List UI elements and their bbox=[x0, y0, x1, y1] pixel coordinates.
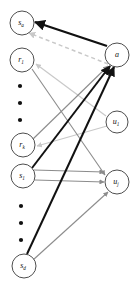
node-s-d[interactable]: sd bbox=[12, 254, 36, 278]
edge-a-to-sa-dashed bbox=[29, 33, 108, 64]
ellipsis-dot-upper-2 bbox=[18, 101, 22, 105]
node-a[interactable]: a bbox=[105, 43, 129, 67]
node-r-k[interactable]: rk bbox=[11, 133, 35, 157]
graph-canvas: sa r1 rk s1 bbox=[0, 0, 138, 291]
graph-diagram: sa r1 rk s1 bbox=[0, 0, 138, 291]
node-s-a[interactable]: sa bbox=[10, 11, 34, 35]
node-r-1[interactable]: r1 bbox=[10, 48, 34, 72]
edge-s1-to-a bbox=[32, 66, 110, 168]
edge-layer bbox=[27, 22, 114, 260]
ellipsis-dot-upper-3 bbox=[18, 118, 22, 122]
ellipsis-dot-lower-3 bbox=[19, 238, 23, 242]
ellipsis-dot-upper-1 bbox=[18, 84, 22, 88]
edge-sd-to-uj bbox=[33, 192, 108, 260]
edge-a-to-sa bbox=[35, 22, 107, 46]
ellipsis-layer bbox=[18, 84, 23, 242]
ellipsis-dot-lower-1 bbox=[19, 204, 23, 208]
node-u-j[interactable]: uj bbox=[105, 170, 129, 194]
node-layer: sa r1 rk s1 bbox=[10, 11, 129, 278]
node-u-1[interactable]: u1 bbox=[106, 111, 128, 133]
edge-u1-to-rk bbox=[37, 126, 107, 146]
node-a-label: a bbox=[115, 50, 119, 59]
node-s-1[interactable]: s1 bbox=[11, 164, 35, 188]
edge-s1-to-uj bbox=[35, 180, 104, 182]
ellipsis-dot-lower-2 bbox=[19, 221, 23, 225]
edge-s1-to-uj-upper bbox=[34, 170, 104, 172]
edge-r1-to-uj bbox=[32, 69, 105, 175]
